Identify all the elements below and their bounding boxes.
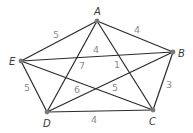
- edge-e-c: [21, 61, 153, 110]
- graph-canvas: 5447135456 ABCDE: [0, 0, 193, 133]
- edge-d-b: [47, 52, 173, 112]
- weighted-graph-diagram: 5447135456 ABCDE: [0, 0, 193, 133]
- edge-weight-d-b: 6: [74, 84, 80, 95]
- edge-weight-d-c: 4: [91, 114, 97, 125]
- vertices-layer: [19, 19, 176, 115]
- vertex-label-d: D: [43, 118, 51, 129]
- vertex-d-dot-icon: [45, 110, 50, 115]
- vertex-c-dot-icon: [151, 108, 156, 113]
- edge-weight-b-c: 3: [166, 79, 172, 90]
- vertex-b-dot-icon: [171, 50, 176, 55]
- edge-weight-e-c: 5: [112, 82, 118, 93]
- vertex-label-e: E: [9, 56, 16, 67]
- edge-weight-a-e: 5: [53, 29, 59, 40]
- vertex-label-a: A: [93, 6, 101, 17]
- vertex-label-b: B: [178, 48, 185, 59]
- edges-layer: [21, 21, 173, 112]
- edge-d-c: [47, 110, 153, 112]
- vertex-e-dot-icon: [19, 59, 24, 64]
- edge-weight-a-c: 1: [114, 59, 120, 70]
- vertex-label-c: C: [149, 116, 156, 127]
- edge-weight-a-d: 7: [79, 60, 85, 71]
- edge-weight-a-b: 4: [134, 24, 140, 35]
- edge-weight-e-b: 4: [93, 44, 99, 55]
- vertex-a-dot-icon: [95, 19, 100, 24]
- edge-weight-e-d: 5: [24, 82, 30, 93]
